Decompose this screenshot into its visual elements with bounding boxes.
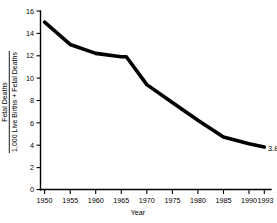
y-tick-label: 14 — [26, 29, 34, 38]
y-tick-label: 4 — [30, 141, 34, 150]
y-tick-label: 2 — [30, 163, 34, 172]
fetal-death-rate-line-chart: 16 14 12 10 8 6 4 2 0 1950 1955 — [0, 0, 277, 223]
y-tick-label: 0 — [30, 185, 34, 194]
y-tick-label: 6 — [30, 119, 34, 128]
x-tick-label: 1993 — [258, 196, 274, 205]
x-tick-label: 1955 — [62, 196, 78, 205]
x-tick-label: 1975 — [164, 196, 180, 205]
y-tick-label: 16 — [26, 7, 34, 16]
x-tick-label: 1970 — [139, 196, 155, 205]
x-tick-label: 1960 — [88, 196, 104, 205]
y-axis-title-denominator: 1,000 Live Births + Fetal Deaths — [11, 52, 18, 152]
chart-container: 16 14 12 10 8 6 4 2 0 1950 1955 — [0, 0, 277, 223]
x-tick-label: 1980 — [190, 196, 206, 205]
x-tick-label: 1965 — [113, 196, 129, 205]
y-tick-label: 12 — [26, 51, 34, 60]
x-tick-label: 1990 — [241, 196, 257, 205]
x-tick-label: 1985 — [216, 196, 232, 205]
x-tick-label: 1950 — [37, 196, 53, 205]
y-tick-label: 8 — [30, 96, 34, 105]
endpoint-value-annotation: 3.8 — [268, 144, 277, 153]
y-tick-label: 10 — [26, 74, 34, 83]
y-axis-title-numerator: Fetal Deaths — [1, 82, 8, 122]
x-axis-title: Year — [131, 208, 146, 217]
